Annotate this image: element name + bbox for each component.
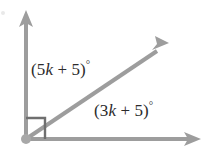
vertex-point — [21, 134, 31, 144]
angle-diagram-canvas — [0, 0, 208, 166]
angle-label-lower: (3k + 5)° — [94, 102, 153, 119]
upper-variable: k — [45, 60, 53, 79]
angle-diagram-figure: (5k + 5)° (3k + 5)° — [0, 0, 208, 166]
lower-degree-symbol: ° — [149, 99, 154, 111]
upper-operator: + — [53, 60, 71, 79]
lower-constant: 5 — [134, 101, 143, 120]
angle-label-upper: (5k + 5)° — [31, 61, 90, 78]
diagonal-ray-arrowhead — [152, 36, 169, 50]
lower-variable: k — [108, 101, 116, 120]
upper-constant: 5 — [71, 60, 80, 79]
lower-operator: + — [116, 101, 134, 120]
upper-degree-symbol: ° — [86, 58, 91, 70]
